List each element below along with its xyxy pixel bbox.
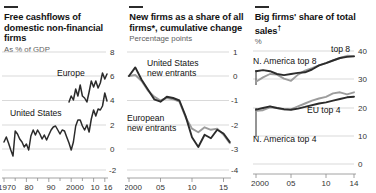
panel-title: Big firms' share of total sales† bbox=[255, 12, 373, 36]
ytick-label: 10 bbox=[358, 132, 367, 141]
ytick-label: 0 bbox=[233, 72, 238, 81]
ytick-label: 1 bbox=[233, 48, 238, 57]
xtick-label: 80 bbox=[25, 183, 34, 192]
annotation-na-top8: N. America top 8 bbox=[253, 56, 317, 66]
xtick-label: 10 bbox=[188, 183, 197, 192]
panel-subtitle: Percentage points bbox=[129, 34, 250, 43]
ytick-label: 20 bbox=[358, 104, 367, 113]
annotation-us-new-entrants-2: new entrants bbox=[147, 68, 196, 78]
ytick-label: 2 bbox=[110, 121, 115, 130]
ytick-label: -1 bbox=[231, 96, 239, 105]
annotation-na-top4: N. America top 4 bbox=[253, 134, 317, 144]
xtick-label: 10 bbox=[321, 179, 330, 188]
plot-area-free-cashflows: 8 6 4 2 0 -2 1970 80 90 2000 10 16 bbox=[0, 45, 125, 193]
xtick-label: 16 bbox=[104, 183, 113, 192]
dagger-symbol: † bbox=[277, 24, 281, 31]
xtick-label: 10 bbox=[91, 183, 100, 192]
ytick-label: -2 bbox=[109, 166, 117, 175]
panel-free-cashflows: Free cashflows of domestic non-financial… bbox=[0, 0, 125, 193]
ytick-label: -3 bbox=[231, 145, 239, 154]
ytick-label: 8 bbox=[110, 48, 115, 57]
annotation-europe: Europe bbox=[57, 68, 85, 78]
panel-title-text: Big firms' share of total sales bbox=[255, 12, 356, 36]
panel-title: Free cashflows of domestic non-financial… bbox=[4, 12, 122, 44]
annotation-united-states: United States bbox=[10, 108, 62, 118]
series-united-states bbox=[4, 93, 107, 156]
xtick-label: 1970 bbox=[0, 183, 16, 192]
title-rule bbox=[4, 6, 18, 8]
ytick-label: -2 bbox=[231, 121, 239, 130]
title-rule bbox=[255, 6, 269, 8]
panel-big-firms-share: Big firms' share of total sales† % bbox=[251, 0, 376, 193]
annotation-eu-top8-2: top 8 bbox=[331, 45, 350, 54]
ytick-label: 0 bbox=[358, 160, 363, 169]
xtick-label: 2000 bbox=[125, 183, 142, 192]
panel-title: New firms as a share of all firms*, cumu… bbox=[129, 12, 247, 33]
plot-area-big-firms: 40 30 20 10 0 2000 05 10 14 EU top 8 N. … bbox=[251, 45, 376, 193]
xtick-label: 15 bbox=[219, 183, 228, 192]
ytick-label: 6 bbox=[110, 72, 115, 81]
panel-new-firms-share: New firms as a share of all firms*, cumu… bbox=[125, 0, 250, 193]
annotation-us-new-entrants-1: United States bbox=[147, 58, 199, 68]
annotation-eu-new-entrants-2: new entrants bbox=[127, 123, 176, 133]
ytick-label: 4 bbox=[110, 96, 115, 105]
annotation-eu-top4: EU top 4 bbox=[307, 105, 341, 115]
ytick-label: 40 bbox=[358, 47, 367, 56]
series-us-new-entrants bbox=[129, 67, 230, 147]
xtick-label: 14 bbox=[349, 179, 358, 188]
title-rule bbox=[129, 6, 143, 8]
plot-area-new-firms: 1 0 -1 -2 -3 -4 2000 05 10 15 United Sta… bbox=[125, 45, 250, 193]
xtick-label: 2000 bbox=[66, 183, 84, 192]
xtick-label: 2000 bbox=[251, 179, 269, 188]
ytick-label: 0 bbox=[110, 145, 115, 154]
ytick-label: -4 bbox=[231, 166, 239, 175]
xtick-label: 90 bbox=[47, 183, 56, 192]
ytick-label: 30 bbox=[358, 75, 367, 84]
annotation-eu-new-entrants-1: European bbox=[127, 113, 164, 123]
chart-sheet: Free cashflows of domestic non-financial… bbox=[0, 0, 376, 193]
xtick-label: 05 bbox=[286, 179, 295, 188]
xtick-label: 05 bbox=[156, 183, 165, 192]
